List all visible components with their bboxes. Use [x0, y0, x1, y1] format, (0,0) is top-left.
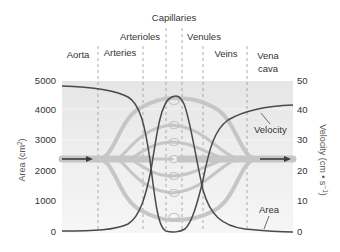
region-labels: Capillaries Arterioles Venules Aorta Art…	[67, 12, 280, 74]
region-label-capillaries: Capillaries	[152, 12, 197, 23]
left-tick-4000: 4000	[35, 104, 56, 115]
region-label-arteries: Arteries	[104, 47, 137, 58]
left-axis-ticks: 5000 4000 3000 2000 1000 0	[35, 75, 56, 237]
region-label-aorta: Aorta	[67, 49, 90, 60]
region-label-vena-cava-line1: Vena	[257, 50, 279, 61]
left-tick-3000: 3000	[35, 134, 56, 145]
left-tick-5000: 5000	[35, 75, 56, 86]
right-tick-40: 40	[297, 104, 308, 115]
velocity-curve-label: Velocity	[254, 124, 287, 135]
right-tick-0: 0	[297, 226, 302, 237]
left-tick-1000: 1000	[35, 195, 56, 206]
region-label-veins: Veins	[214, 48, 237, 59]
right-tick-50: 50	[297, 75, 308, 86]
right-tick-10: 10	[297, 195, 308, 206]
region-label-venules: Venules	[187, 31, 221, 42]
area-curve-label: Area	[259, 204, 280, 215]
right-axis-title: Velocity (cm • s−1)	[318, 124, 329, 196]
right-tick-30: 30	[297, 134, 308, 145]
left-tick-0: 0	[51, 226, 56, 237]
right-axis-ticks: 50 40 30 20 10 0	[297, 75, 308, 237]
blood-flow-chart: Velocity Area Capillaries Arterioles Ven…	[0, 0, 340, 252]
region-label-arterioles: Arterioles	[120, 31, 160, 42]
right-tick-20: 20	[297, 165, 308, 176]
left-tick-2000: 2000	[35, 165, 56, 176]
region-label-vena-cava-line2: cava	[258, 63, 279, 74]
left-axis-title: Area (cm2)	[16, 138, 27, 181]
